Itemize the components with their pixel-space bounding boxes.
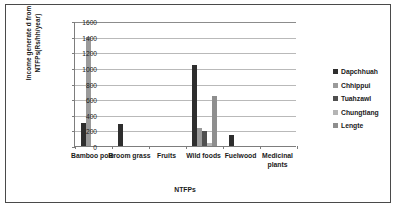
x-axis-tick	[297, 146, 298, 149]
x-axis-label-medicinal-plants: Medicinal plants	[253, 151, 302, 169]
y-axis-tick-label: 200	[57, 128, 97, 135]
x-axis-tick	[112, 146, 113, 149]
y-axis-tick-label: 800	[57, 81, 97, 88]
bar-group	[186, 22, 223, 146]
legend-label: Dapchhuah	[341, 68, 378, 75]
y-axis-tick-label: 0	[57, 144, 97, 151]
legend-label: Chhippui	[341, 82, 370, 89]
legend-item-lengte[interactable]: Lengte	[333, 122, 379, 129]
legend-label: Tuahzawl	[341, 95, 371, 102]
legend-swatch-icon	[333, 123, 338, 128]
legend-item-chungtlang[interactable]: Chungtlang	[333, 109, 379, 116]
bar-dapchhuah	[118, 124, 123, 146]
bar-group	[260, 22, 297, 146]
x-axis-tick	[186, 146, 187, 149]
chart-legend: DapchhuahChhippuiTuahzawlChungtlangLengt…	[333, 68, 379, 136]
x-axis-title: NTFPs	[74, 186, 296, 193]
bar-group	[223, 22, 260, 146]
bar-group	[112, 22, 149, 146]
legend-label: Lengte	[341, 122, 363, 129]
bar-group	[149, 22, 186, 146]
bar-dapchhuah	[229, 135, 234, 146]
y-axis-title: Income generate d from NTFPs(Rs/hh/year)	[19, 0, 47, 102]
x-axis-tick	[260, 146, 261, 149]
plot-area	[74, 22, 296, 147]
legend-item-dapchhuah[interactable]: Dapchhuah	[333, 68, 379, 75]
legend-swatch-icon	[333, 96, 338, 101]
x-axis-tick	[223, 146, 224, 149]
x-axis-tick	[149, 146, 150, 149]
y-axis-tick-label: 1600	[57, 19, 97, 26]
y-axis-tick-label: 1400	[57, 34, 97, 41]
legend-label: Chungtlang	[341, 109, 379, 116]
legend-swatch-icon	[333, 83, 338, 88]
y-axis-tick-label: 1200	[57, 50, 97, 57]
bar-lengte	[212, 96, 217, 146]
legend-swatch-icon	[333, 69, 338, 74]
y-axis-tick-label: 600	[57, 97, 97, 104]
y-axis-tick-label: 1000	[57, 65, 97, 72]
chart-frame: Income generate d from NTFPs(Rs/hh/year)…	[5, 4, 391, 203]
legend-swatch-icon	[333, 110, 338, 115]
legend-item-chhippui[interactable]: Chhippui	[333, 82, 379, 89]
y-axis-tick-label: 400	[57, 112, 97, 119]
legend-item-tuahzawl[interactable]: Tuahzawl	[333, 95, 379, 102]
